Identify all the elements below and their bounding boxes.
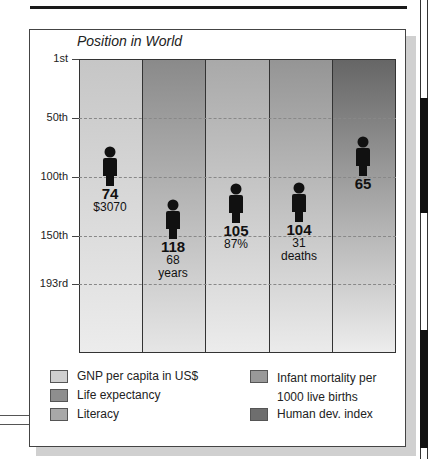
legend-label: Life expectancy [77, 388, 160, 402]
legend-item: Life expectancy [50, 388, 198, 407]
legend-right: Infant mortality per1000 live births Hum… [250, 369, 376, 426]
y-tick [72, 284, 79, 285]
legend-swatch [250, 370, 268, 383]
edge-block [420, 98, 428, 213]
detail-value: 87% [205, 238, 267, 251]
legend-swatch [50, 370, 68, 383]
y-tick-label: 100th [28, 170, 68, 182]
person-icon [353, 136, 373, 176]
page-edge-bar [420, 0, 428, 459]
person-icon [163, 199, 183, 239]
y-tick [72, 118, 79, 119]
rank-value: 105 [205, 223, 267, 238]
y-tick-label: 50th [28, 111, 68, 123]
legend-label-line1: Infant mortality per [277, 371, 376, 385]
marker-life-expectancy: 118 68 years [142, 199, 204, 280]
legend-left: GNP per capita in US$ Life expectancy Li… [50, 369, 198, 426]
y-tick-label: 150th [28, 229, 68, 241]
marker-gnp: 74 $3070 [79, 146, 141, 214]
marker-human-dev-index: 65 [332, 136, 394, 191]
legend-item: Literacy [50, 407, 198, 426]
rank-value: 65 [332, 176, 394, 191]
chart-title: Position in World [77, 33, 182, 49]
legend-label: Literacy [77, 407, 119, 421]
legend-swatch [50, 408, 68, 421]
rank-value: 104 [268, 222, 330, 237]
gridline [79, 118, 396, 119]
marker-literacy: 105 87% [205, 183, 267, 251]
legend-swatch [50, 389, 68, 402]
legend-swatch [250, 408, 268, 421]
y-tick-label: 1st [28, 52, 68, 64]
rank-value: 74 [79, 186, 141, 201]
rank-value: 118 [142, 239, 204, 254]
bar-human-dev-index [333, 60, 395, 352]
detail-unit: deaths [268, 250, 330, 263]
y-tick-label: 193rd [28, 277, 68, 289]
detail-unit: years [142, 267, 204, 280]
left-rule-lines [0, 415, 30, 425]
marker-infant-mortality: 104 31 deaths [268, 182, 330, 263]
gridline [79, 284, 396, 285]
y-tick [72, 236, 79, 237]
person-icon [226, 183, 246, 223]
person-icon [100, 146, 120, 186]
top-rule [30, 6, 407, 9]
legend-item: Human dev. index [250, 407, 376, 426]
legend-label: Human dev. index [277, 407, 373, 421]
legend-item: Infant mortality per1000 live births [250, 369, 376, 407]
y-tick [72, 177, 79, 178]
y-tick [72, 59, 79, 60]
legend-label: GNP per capita in US$ [77, 369, 198, 383]
legend-item: GNP per capita in US$ [50, 369, 198, 388]
edge-block [420, 330, 428, 448]
legend-label: Infant mortality per1000 live births [277, 369, 376, 407]
person-icon [289, 182, 309, 222]
detail-value: $3070 [79, 201, 141, 214]
legend-label-line2: 1000 live births [277, 390, 358, 404]
